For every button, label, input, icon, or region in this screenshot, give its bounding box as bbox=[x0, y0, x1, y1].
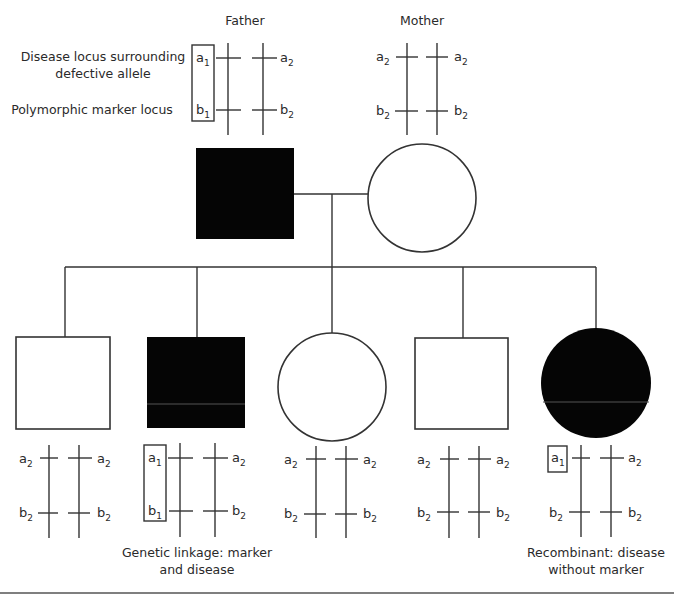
child-2-affected-male bbox=[147, 337, 245, 428]
child-3-chromosomes: a2 b2 a2 b2 bbox=[284, 446, 377, 538]
father-symbol-affected-male bbox=[196, 148, 294, 239]
allele-label: b2 bbox=[284, 506, 298, 524]
marker-locus-label: Polymorphic marker locus bbox=[11, 102, 173, 117]
allele-label: b1 bbox=[196, 102, 210, 120]
allele-label: b2 bbox=[549, 505, 563, 523]
allele-label: a2 bbox=[97, 451, 111, 469]
linkage-caption-line2: and disease bbox=[160, 562, 235, 577]
allele-label: a1 bbox=[148, 450, 162, 468]
allele-label: a2 bbox=[19, 451, 33, 469]
allele-label: b2 bbox=[417, 505, 431, 523]
child-1-chromosomes: a2 b2 a2 b2 bbox=[19, 445, 111, 538]
child-1-unaffected-male bbox=[16, 337, 110, 429]
child-5-chromosomes: a1 b2 a2 b2 bbox=[548, 445, 642, 537]
allele-label: b2 bbox=[628, 505, 642, 523]
allele-label: a2 bbox=[376, 49, 390, 67]
recombinant-caption-line1: Recombinant: disease bbox=[527, 545, 665, 560]
linkage-caption-line1: Genetic linkage: marker bbox=[122, 545, 273, 560]
allele-label: a1 bbox=[196, 50, 210, 68]
mother-title: Mother bbox=[400, 13, 445, 28]
allele-label: a2 bbox=[496, 452, 510, 470]
mother-chromosomes: a2 b2 a2 b2 bbox=[376, 43, 468, 135]
father-chromosomes: a1 b1 a2 b2 bbox=[192, 43, 294, 135]
allele-label: b2 bbox=[376, 103, 390, 121]
allele-label: a2 bbox=[417, 452, 431, 470]
child-2-chromosomes: a1 b1 a2 b2 bbox=[144, 443, 246, 537]
allele-label: b2 bbox=[232, 503, 246, 521]
child-3-unaffected-female bbox=[278, 333, 386, 441]
allele-label: b2 bbox=[454, 103, 468, 121]
allele-label: a2 bbox=[232, 450, 246, 468]
child-4-chromosomes: a2 b2 a2 b2 bbox=[417, 446, 510, 538]
allele-label: b2 bbox=[280, 102, 294, 120]
allele-label: b2 bbox=[363, 506, 377, 524]
allele-label: a2 bbox=[284, 452, 298, 470]
allele-label: b2 bbox=[19, 505, 33, 523]
pedigree-lines bbox=[65, 194, 596, 338]
allele-label: a2 bbox=[280, 50, 294, 68]
allele-label: a2 bbox=[454, 49, 468, 67]
child-5-affected-female bbox=[541, 328, 651, 438]
allele-label: a1 bbox=[551, 450, 565, 468]
allele-label: b2 bbox=[97, 505, 111, 523]
allele-label: a2 bbox=[628, 450, 642, 468]
disease-locus-label-line1: Disease locus surrounding bbox=[21, 49, 186, 64]
child-4-unaffected-male bbox=[415, 338, 508, 429]
father-title: Father bbox=[225, 13, 265, 28]
mother-symbol-unaffected-female bbox=[368, 144, 476, 252]
pedigree-diagram: Father Mother Disease locus surrounding … bbox=[0, 0, 674, 597]
disease-locus-label-line2: defective allele bbox=[55, 66, 151, 81]
allele-label: b1 bbox=[148, 503, 162, 521]
allele-label: b2 bbox=[496, 505, 510, 523]
allele-label: a2 bbox=[363, 452, 377, 470]
recombinant-caption-line2: without marker bbox=[548, 562, 644, 577]
